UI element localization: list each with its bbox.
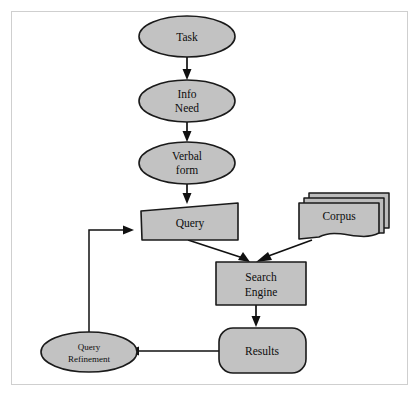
node-corpus-label: Corpus — [322, 210, 356, 223]
edge-verbal-form-to-query — [183, 184, 192, 204]
node-query-refinement[interactable]: Query Refinement — [41, 332, 137, 372]
edge-info-need-to-verbal-form — [183, 122, 192, 142]
node-info-need-label-line2: Need — [175, 102, 200, 114]
edge-task-to-info-need — [183, 57, 192, 80]
edge-query-refinement-to-query — [89, 226, 134, 337]
node-query[interactable]: Query — [141, 203, 238, 240]
edge-corpus-to-search-engine — [256, 240, 312, 262]
diagram-svg: Task Info Need Verbal form Query Corp — [0, 0, 419, 397]
node-query-refinement-label-line2: Refinement — [68, 354, 110, 364]
diagram-canvas: Task Info Need Verbal form Query Corp — [0, 0, 419, 397]
node-info-need[interactable]: Info Need — [139, 80, 235, 122]
edge-search-engine-to-results — [252, 305, 261, 327]
node-results-label: Results — [245, 345, 279, 357]
node-search-engine-label-line1: Search — [245, 271, 277, 283]
node-query-refinement-label-line1: Query — [78, 342, 101, 352]
node-corpus[interactable]: Corpus — [299, 193, 389, 239]
node-results[interactable]: Results — [219, 328, 306, 373]
node-query-label: Query — [176, 217, 205, 230]
node-verbal-form[interactable]: Verbal form — [139, 142, 235, 184]
node-search-engine[interactable]: Search Engine — [216, 262, 306, 305]
edge-query-to-search-engine — [188, 240, 250, 262]
node-verbal-form-label-line2: form — [176, 164, 198, 176]
node-info-need-label-line1: Info — [177, 88, 196, 100]
node-task-label: Task — [176, 31, 198, 43]
node-task[interactable]: Task — [139, 16, 235, 57]
node-search-engine-label-line2: Engine — [245, 286, 278, 299]
edge-results-to-query-refinement — [128, 347, 219, 356]
node-verbal-form-label-line1: Verbal — [172, 150, 202, 162]
